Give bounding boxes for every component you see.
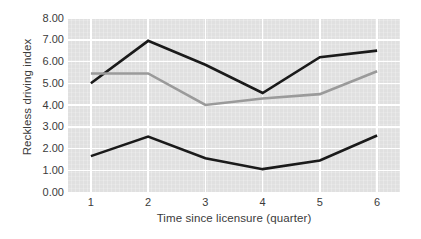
x-tick-label: 2 <box>133 195 163 209</box>
y-tick-label: 3.00 <box>28 120 64 133</box>
x-axis-title: Time since licensure (quarter) <box>68 212 400 224</box>
x-tick-label: 4 <box>248 195 278 209</box>
x-axis-tick-labels: 123456 <box>68 195 400 211</box>
x-tick-label: 5 <box>305 195 335 209</box>
x-tick-label: 1 <box>76 195 106 209</box>
y-axis-tick-labels: 0.001.002.003.004.005.006.007.008.00 <box>28 11 64 195</box>
series-line-middle-gray-line <box>91 71 377 105</box>
y-tick-label: 0.00 <box>28 186 64 199</box>
y-tick-label: 4.00 <box>28 99 64 112</box>
y-tick-label: 6.00 <box>28 55 64 68</box>
y-tick-label: 5.00 <box>28 77 64 90</box>
series-line-upper-dark-line <box>91 41 377 93</box>
line-chart: Reckless driving index 0.001.002.003.004… <box>0 0 421 239</box>
plot-area <box>68 18 400 192</box>
series-line-lower-dark-line <box>91 135 377 169</box>
y-tick-label: 8.00 <box>28 12 64 25</box>
x-tick-label: 3 <box>190 195 220 209</box>
x-tick-label: 6 <box>362 195 392 209</box>
series-lines <box>68 18 400 192</box>
y-tick-label: 2.00 <box>28 142 64 155</box>
y-tick-label: 7.00 <box>28 33 64 46</box>
y-tick-label: 1.00 <box>28 164 64 177</box>
